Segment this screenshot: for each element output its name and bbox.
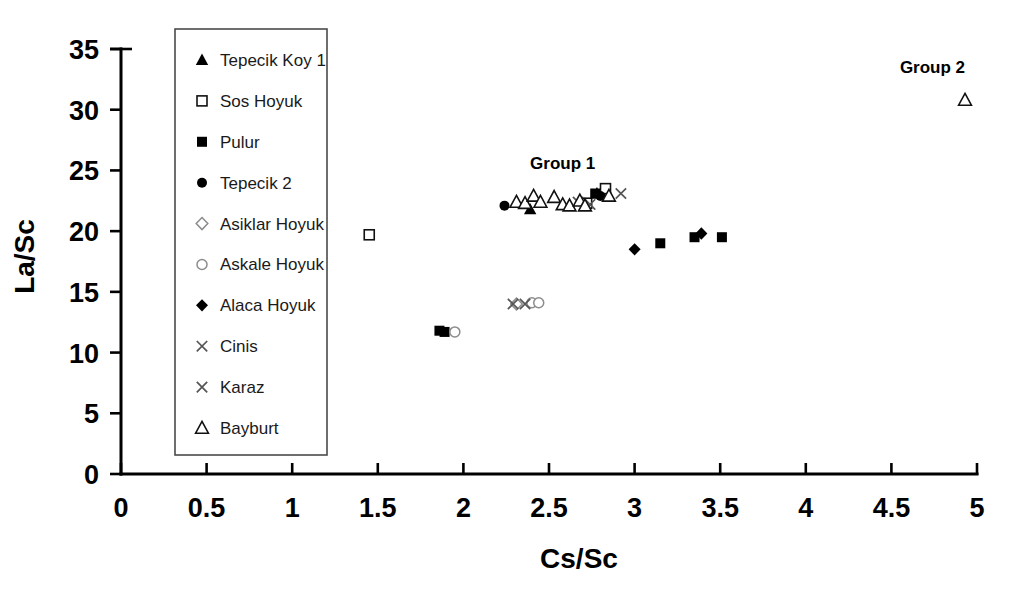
x-tick-label: 0.5	[188, 493, 226, 523]
y-axis-title: La/Sc	[9, 219, 40, 294]
legend-label-asiklar-hoyuk: Asiklar Hoyuk	[220, 215, 324, 234]
data-point-bayburt	[959, 93, 972, 105]
scatter-plot-canvas: 0510152025303500.511.522.533.544.55Cs/Sc…	[0, 0, 1017, 593]
x-tick-label: 3.5	[701, 493, 739, 523]
x-axis: 00.511.522.533.544.55	[113, 463, 984, 523]
data-point-pulur	[717, 232, 727, 242]
legend-marker-open-circle	[197, 259, 207, 269]
x-tick-label: 4	[798, 493, 813, 523]
legend-label-sos-hoyuk: Sos Hoyuk	[220, 92, 303, 111]
chart-figure: 0510152025303500.511.522.533.544.55Cs/Sc…	[0, 0, 1017, 593]
legend-label-alaca-hoyuk: Alaca Hoyuk	[220, 296, 316, 315]
legend-marker-filled-square	[197, 137, 207, 147]
y-tick-label: 30	[69, 96, 99, 126]
annotations: Group 1Group 2	[530, 58, 965, 173]
data-point-sos-hoyuk	[364, 230, 374, 240]
data-points	[364, 93, 971, 337]
data-point-askale-hoyuk	[534, 298, 544, 308]
x-tick-label: 1.5	[359, 493, 397, 523]
legend-label-tepecik-2: Tepecik 2	[220, 174, 292, 193]
y-tick-label: 0	[84, 460, 99, 490]
legend: Tepecik Koy 1Sos HoyukPulurTepecik 2Asik…	[175, 29, 327, 455]
legend-label-bayburt: Bayburt	[220, 419, 279, 438]
data-point-karaz	[616, 188, 626, 198]
y-tick-label: 10	[69, 339, 99, 369]
annotation-group-2: Group 2	[900, 58, 965, 77]
legend-label-cinis: Cinis	[220, 337, 258, 356]
y-tick-label: 5	[84, 399, 99, 429]
x-tick-label: 5	[969, 493, 984, 523]
y-tick-label: 25	[69, 156, 99, 186]
y-axis: 05101520253035	[69, 35, 132, 490]
data-point-tepecik-2	[499, 201, 509, 211]
x-tick-label: 0	[113, 493, 128, 523]
x-tick-label: 2.5	[530, 493, 568, 523]
legend-label-askale-hoyuk: Askale Hoyuk	[220, 255, 324, 274]
x-axis-title: Cs/Sc	[540, 543, 618, 574]
data-point-alaca-hoyuk	[629, 243, 641, 255]
y-tick-label: 15	[69, 278, 99, 308]
data-point-askale-hoyuk	[450, 327, 460, 337]
data-point-pulur	[440, 327, 450, 337]
legend-label-karaz: Karaz	[220, 378, 264, 397]
legend-marker-filled-circle	[197, 178, 207, 188]
annotation-group-1: Group 1	[530, 154, 595, 173]
y-tick-label: 35	[69, 35, 99, 65]
legend-label-tepecik-koy-1: Tepecik Koy 1	[220, 51, 326, 70]
data-point-bayburt	[548, 191, 561, 203]
x-tick-label: 4.5	[873, 493, 911, 523]
x-tick-label: 3	[627, 493, 642, 523]
legend-marker-open-square	[197, 96, 207, 106]
legend-label-pulur: Pulur	[220, 133, 260, 152]
data-point-pulur	[655, 238, 665, 248]
x-tick-label: 2	[456, 493, 471, 523]
y-tick-label: 20	[69, 217, 99, 247]
x-tick-label: 1	[285, 493, 300, 523]
